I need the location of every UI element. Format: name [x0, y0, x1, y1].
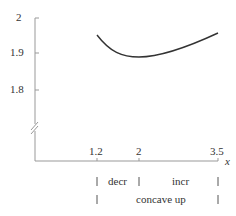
- x-tick-label-2: 2: [136, 146, 142, 157]
- function-curve: [97, 33, 218, 57]
- y-tick-label-2: 2: [16, 12, 22, 23]
- incr-label: incr: [172, 176, 189, 187]
- x-tick-label-3.5: 3.5: [210, 146, 224, 157]
- y-tick-label-1.8: 1.8: [10, 84, 24, 95]
- y-tick-label-1.9: 1.9: [10, 47, 24, 58]
- decr-label: decr: [108, 176, 127, 187]
- concave-up-label: concave up: [136, 194, 186, 205]
- x-axis-label: x: [225, 156, 230, 167]
- x-tick-label-1.2: 1.2: [89, 146, 103, 157]
